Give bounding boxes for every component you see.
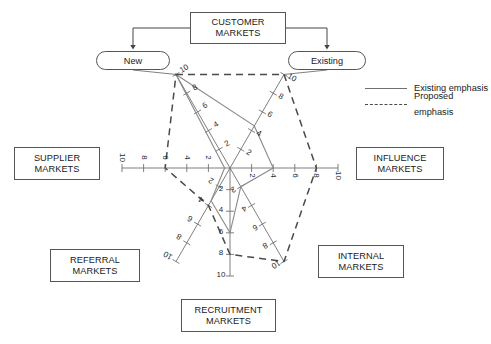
- legend-item-proposed: Proposed emphasis: [365, 96, 491, 112]
- tick-label-recruitment-6: 6: [214, 227, 228, 236]
- diagram-canvas: 2468102468102468102468102468102468102468…: [0, 0, 491, 344]
- branch-existing-pill[interactable]: Existing: [288, 51, 366, 70]
- influence-markets-line1: INFLUENCE: [374, 153, 427, 164]
- legend-label-proposed: Proposed emphasis: [414, 88, 491, 120]
- tick-referral-10: [173, 260, 180, 264]
- customer-markets-line2: MARKETS: [215, 28, 260, 39]
- internal-markets-line2: MARKETS: [338, 262, 383, 273]
- customer-markets-line1: CUSTOMER: [211, 17, 264, 28]
- stem-new: [133, 70, 176, 74]
- branch-new-label: New: [124, 56, 142, 66]
- tick-label-supplier-8: 8: [139, 151, 148, 165]
- influence-markets-box: INFLUENCE MARKETS: [356, 147, 444, 180]
- tick-label-supplier-2: 2: [204, 151, 213, 165]
- tick-label-recruitment-8: 8: [214, 248, 228, 257]
- recruitment-markets-line2: MARKETS: [206, 316, 251, 327]
- radar-axes: [122, 74, 338, 276]
- connector-to-new: [133, 28, 190, 47]
- supplier-markets-box: SUPPLIER MARKETS: [14, 147, 100, 180]
- internal-markets-line1: INTERNAL: [338, 251, 384, 262]
- internal-markets-box: INTERNAL MARKETS: [318, 245, 404, 278]
- referral-markets-line1: REFERRAL: [70, 255, 120, 266]
- tick-label-supplier-6: 6: [161, 151, 170, 165]
- tick-label-influence-2: 2: [247, 169, 256, 183]
- referral-markets-line2: MARKETS: [72, 266, 117, 277]
- supplier-markets-line2: MARKETS: [34, 164, 79, 175]
- tick-label-influence-4: 4: [269, 169, 278, 183]
- tick-label-influence-8: 8: [312, 169, 321, 183]
- customer-markets-box: CUSTOMER MARKETS: [190, 12, 286, 44]
- tick-label-recruitment-10: 10: [214, 270, 228, 279]
- recruitment-markets-line1: RECRUITMENT: [195, 305, 263, 316]
- referral-markets-box: REFERRAL MARKETS: [50, 249, 140, 282]
- influence-markets-line2: MARKETS: [377, 164, 422, 175]
- legend-swatch-solid-icon: [365, 88, 407, 89]
- supplier-markets-line1: SUPPLIER: [34, 153, 80, 164]
- tick-label-influence-6: 6: [290, 169, 299, 183]
- axis-existing: [230, 74, 284, 168]
- branch-existing-label: Existing: [311, 56, 343, 66]
- tick-label-recruitment-4: 4: [214, 205, 228, 214]
- legend-swatch-dashed-icon: [365, 104, 407, 105]
- tick-label-influence-10: 10: [334, 169, 343, 183]
- tick-label-supplier-10: 10: [118, 151, 127, 165]
- tick-label-supplier-4: 4: [182, 151, 191, 165]
- legend: Existing emphasis Proposed emphasis: [365, 80, 491, 112]
- tick-referral-8: [183, 241, 190, 245]
- connector-to-existing: [286, 28, 327, 47]
- recruitment-markets-box: RECRUITMENT MARKETS: [181, 299, 276, 332]
- branch-new-pill[interactable]: New: [96, 51, 170, 70]
